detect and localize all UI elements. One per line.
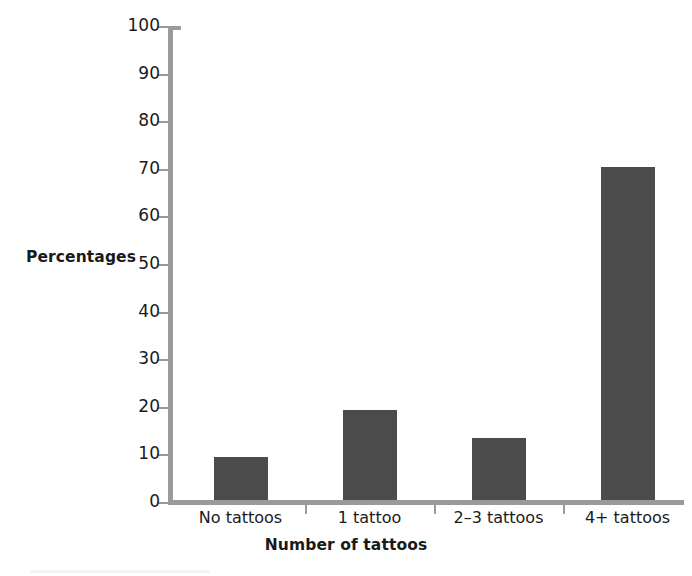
x-axis-line xyxy=(168,500,684,505)
y-tick-label: 40 xyxy=(116,301,160,321)
y-axis-line xyxy=(168,26,173,504)
y-axis-top-cap xyxy=(168,26,181,30)
y-tick-label: 90 xyxy=(116,63,160,83)
y-tick-label: 70 xyxy=(116,158,160,178)
y-tick-label: 50 xyxy=(116,253,160,273)
y-tick-label: 60 xyxy=(116,205,160,225)
y-tick-label: 20 xyxy=(116,396,160,416)
x-axis-title: Number of tattoos xyxy=(0,536,692,554)
bar-0 xyxy=(214,457,268,500)
category-label-0: No tattoos xyxy=(176,508,305,528)
scan-artifact xyxy=(30,570,210,573)
y-tick-label: 80 xyxy=(116,110,160,130)
plot-area: 0102030405060708090100 xyxy=(168,24,684,504)
category-label-3: 4+ tattoos xyxy=(563,508,692,528)
bar-2 xyxy=(472,438,526,500)
category-label-1: 1 tattoo xyxy=(305,508,434,528)
bar-1 xyxy=(343,410,397,500)
bar-chart: Percentages 0102030405060708090100 No ta… xyxy=(0,0,692,576)
y-tick-label: 0 xyxy=(116,491,160,511)
y-tick-label: 10 xyxy=(116,443,160,463)
y-tick-label: 30 xyxy=(116,348,160,368)
y-tick-label: 100 xyxy=(116,15,160,35)
category-label-2: 2–3 tattoos xyxy=(434,508,563,528)
bar-3 xyxy=(601,167,655,500)
